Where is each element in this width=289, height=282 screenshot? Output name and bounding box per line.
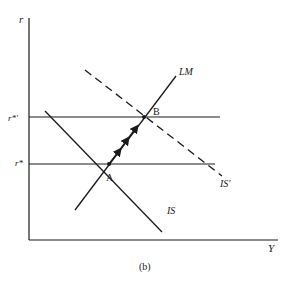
point-b-label: B xyxy=(153,106,160,117)
y-axis-label: r xyxy=(19,13,24,25)
lm-label: LM xyxy=(178,66,194,77)
is-prime-curve xyxy=(85,70,222,176)
point-b-marker xyxy=(142,115,146,119)
islm-diagram: r Y r*' r* LM IS IS' A B (b) xyxy=(0,0,289,282)
movement-arrows xyxy=(109,128,136,164)
diagram-caption: (b) xyxy=(139,261,151,273)
is-prime-label: IS' xyxy=(219,178,231,189)
point-a-marker xyxy=(107,162,111,166)
r-star-label: r* xyxy=(15,158,24,168)
is-label: IS xyxy=(166,205,175,216)
point-a-label: A xyxy=(106,172,114,183)
x-axis-label: Y xyxy=(268,242,276,254)
is-curve xyxy=(45,111,162,232)
r-star-prime-label: r*' xyxy=(8,113,19,123)
